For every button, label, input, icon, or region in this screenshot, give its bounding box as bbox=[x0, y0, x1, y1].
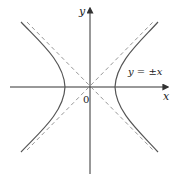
origin-label: 0 bbox=[83, 94, 89, 105]
asymptote-label: y = ±x bbox=[127, 66, 163, 77]
y-axis-label: y bbox=[78, 5, 86, 18]
hyperbola-diagram: y x 0 y = ±x bbox=[0, 0, 172, 185]
x-axis-label: x bbox=[163, 90, 170, 103]
